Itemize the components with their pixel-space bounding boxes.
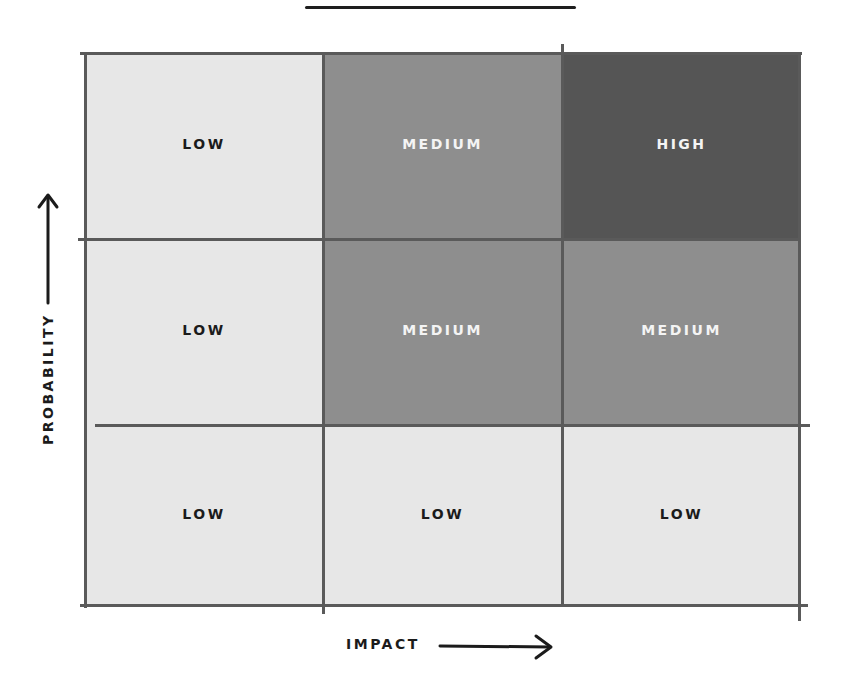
cell-prob-low-impact-medium: LOW <box>323 425 562 606</box>
risk-level-label: MEDIUM <box>641 322 722 338</box>
risk-level-label: LOW <box>421 506 464 522</box>
risk-level-label: LOW <box>182 506 225 522</box>
cell-prob-medium-impact-high: MEDIUM <box>562 239 801 425</box>
title-underline <box>305 6 576 9</box>
arrow-up-icon <box>36 190 60 305</box>
grid-line-col2 <box>561 44 564 606</box>
cell-prob-high-impact-low: LOW <box>85 53 323 239</box>
grid-line-col1 <box>322 53 325 614</box>
risk-matrix: LOW MEDIUM HIGH LOW MEDIUM MEDIUM LOW LO… <box>85 53 801 606</box>
grid-line-row1 <box>78 238 800 241</box>
cell-prob-medium-impact-medium: MEDIUM <box>323 239 562 425</box>
risk-level-label: MEDIUM <box>402 136 483 152</box>
cell-prob-low-impact-low: LOW <box>85 425 323 606</box>
risk-level-label: MEDIUM <box>402 322 483 338</box>
cell-prob-high-impact-medium: MEDIUM <box>323 53 562 239</box>
grid-line-left <box>84 53 87 608</box>
grid-line-right <box>798 53 801 621</box>
cell-prob-low-impact-high: LOW <box>562 425 801 606</box>
cell-prob-high-impact-high: HIGH <box>562 53 801 239</box>
x-axis-label: IMPACT <box>346 636 420 652</box>
risk-level-label: LOW <box>660 506 703 522</box>
risk-level-label: HIGH <box>656 136 706 152</box>
grid-line-top <box>80 52 802 55</box>
grid-line-bottom <box>80 604 808 607</box>
risk-level-label: LOW <box>182 322 225 338</box>
y-axis-label: PROBABILITY <box>40 313 56 445</box>
grid-line-row2 <box>95 424 810 427</box>
cell-prob-medium-impact-low: LOW <box>85 239 323 425</box>
risk-level-label: LOW <box>182 136 225 152</box>
arrow-right-icon <box>438 633 558 659</box>
